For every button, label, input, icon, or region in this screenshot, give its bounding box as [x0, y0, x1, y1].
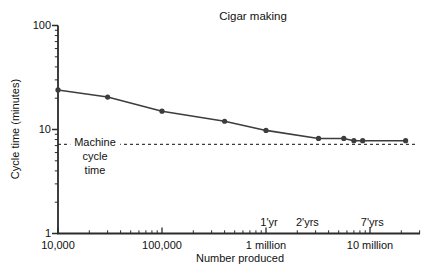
- data-point: [341, 136, 346, 141]
- machine-cycle-time-label-line3: time: [70, 164, 120, 178]
- major-ticks: [52, 26, 370, 234]
- chart-plot-area: [0, 0, 438, 277]
- data-point: [403, 138, 408, 143]
- data-point: [360, 138, 365, 143]
- x-axis-label: Number produced: [196, 252, 284, 264]
- x-tick-label: 10,000: [41, 239, 75, 251]
- data-point: [316, 136, 321, 141]
- data-point: [105, 94, 110, 99]
- y-tick-label: 100: [33, 19, 51, 31]
- y-tick-label: 10: [39, 123, 51, 135]
- x-tick-label: 10 million: [347, 239, 393, 251]
- axis-lines: [58, 26, 420, 234]
- annotation-label: 1'yr: [260, 216, 277, 228]
- y-tick-label: 1: [45, 227, 51, 239]
- data-point: [351, 138, 356, 143]
- cigar-making-learning-curve-figure: Cigar making Cycle time (minutes) Number…: [0, 0, 438, 277]
- machine-cycle-time-label-line1: Machine: [70, 136, 120, 150]
- machine-cycle-time-label-line2: cycle: [70, 150, 120, 164]
- annotation-label: 2'yrs: [296, 216, 319, 228]
- chart-title: Cigar making: [219, 10, 287, 22]
- x-tick-label: 100,000: [142, 239, 182, 251]
- minor-ticks: [55, 30, 420, 233]
- data-point: [222, 119, 227, 124]
- machine-cycle-time-label: Machine cycle time: [70, 136, 120, 177]
- y-axis-label: Cycle time (minutes): [9, 79, 21, 179]
- data-point: [263, 128, 268, 133]
- data-point: [159, 109, 164, 114]
- annotation-label: 7'yrs: [361, 216, 384, 228]
- data-point: [55, 87, 60, 92]
- x-tick-label: 1 million: [246, 239, 286, 251]
